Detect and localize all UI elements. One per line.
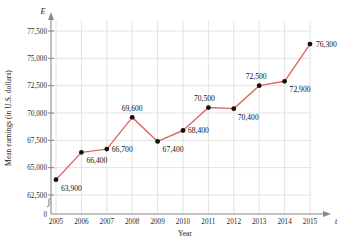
x-tick-label-2014: 2014	[277, 218, 292, 226]
data-label-2012: 70,400	[238, 113, 259, 122]
y-axis-break-icon	[47, 198, 51, 207]
data-point-2010[interactable]	[181, 128, 186, 133]
data-label-2015: 76,300	[316, 40, 337, 49]
x-tick-label-2005: 2005	[49, 218, 64, 226]
y-axis-symbol-E: E	[40, 7, 46, 16]
chart-canvas: 062,50065,00067,50070,00072,50075,00077,…	[0, 0, 347, 246]
y-tick-label-77500: 77,500	[27, 28, 47, 36]
data-label-2009: 67,400	[163, 145, 184, 154]
data-point-2005[interactable]	[54, 177, 59, 182]
x-tick-label-2015: 2015	[303, 218, 318, 226]
data-point-2013[interactable]	[257, 83, 262, 88]
data-label-2007: 66,700	[112, 145, 133, 154]
data-label-2010: 68,400	[188, 126, 209, 135]
data-point-2007[interactable]	[104, 147, 109, 152]
data-point-2009[interactable]	[155, 139, 160, 144]
y-tick-label-72500: 72,500	[27, 82, 47, 90]
x-axis-arrow-icon	[323, 211, 331, 217]
y-tick-label-67500: 67,500	[27, 137, 47, 145]
data-point-2012[interactable]	[231, 106, 236, 111]
y-tick-label-62500: 62,500	[27, 192, 47, 200]
y-tick-label-75000: 75,000	[27, 55, 47, 63]
data-point-2008[interactable]	[130, 115, 135, 120]
data-point-2015[interactable]	[308, 42, 313, 47]
y-axis-arrow-icon	[48, 12, 54, 20]
data-point-2014[interactable]	[282, 79, 287, 84]
x-axis-symbol-t: t	[335, 217, 338, 226]
x-tick-label-2007: 2007	[100, 218, 115, 226]
x-tick-label-2010: 2010	[176, 218, 191, 226]
x-tick-label-2012: 2012	[227, 218, 242, 226]
data-point-2011[interactable]	[206, 105, 211, 110]
x-tick-label-2008: 2008	[125, 218, 140, 226]
y-tick-label-70000: 70,000	[27, 110, 47, 118]
x-axis-title: Year	[178, 229, 192, 238]
x-tick-label-2011: 2011	[201, 218, 216, 226]
x-tick-label-2009: 2009	[150, 218, 165, 226]
data-label-2008: 69,600	[122, 104, 143, 113]
x-tick-label-2006: 2006	[74, 218, 89, 226]
data-label-2014: 72,900	[290, 85, 311, 94]
y-tick-label-0: 0	[43, 211, 47, 219]
data-label-2011: 70,500	[194, 94, 215, 103]
y-axis-title: Mean earnings (in U.S. dollars)	[4, 70, 13, 166]
data-label-2006: 66,400	[86, 156, 107, 165]
earnings-line-chart: 062,50065,00067,50070,00072,50075,00077,…	[0, 0, 347, 246]
data-label-2013: 72,500	[246, 72, 267, 81]
data-label-2005: 63,900	[61, 184, 82, 193]
data-point-2006[interactable]	[79, 150, 84, 155]
x-tick-label-2013: 2013	[252, 218, 267, 226]
y-tick-label-65000: 65,000	[27, 164, 47, 172]
